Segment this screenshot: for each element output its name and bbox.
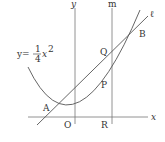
point-label-p: P [101,80,107,90]
equation-exponent: 2 [48,44,54,54]
x-axis-label: x [151,112,156,122]
curve-equation: y= 1 4 x 2 [16,44,54,64]
point-label-q: Q [100,47,107,57]
line-l [37,16,148,125]
point-label-a: A [42,103,50,113]
point-label-b: B [139,29,146,39]
equation-lhs: y= [16,49,30,59]
line-m-label: m [108,0,117,9]
diagram: y m ℓ x O A B Q P R y= 1 4 x 2 [0,0,165,142]
equation-numerator: 1 [35,44,41,54]
line-l-label: ℓ [150,9,154,19]
y-axis-label: y [70,0,77,9]
equation-variable: x [42,49,47,59]
point-label-r: R [101,120,108,130]
equation-denominator: 4 [35,54,41,64]
origin-label: O [64,120,71,130]
